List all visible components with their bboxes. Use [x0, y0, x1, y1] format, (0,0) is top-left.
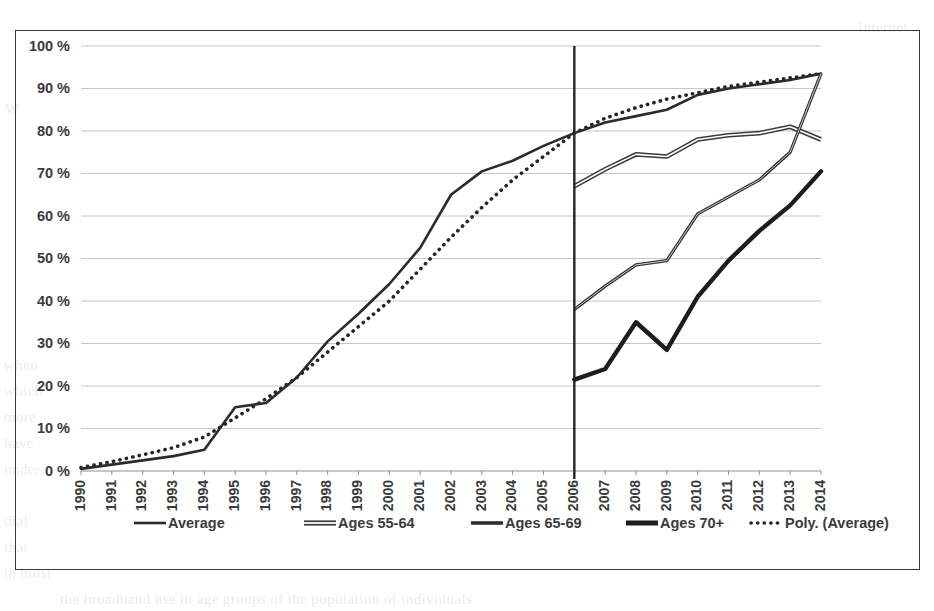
x-tick-label: 1997	[288, 480, 304, 511]
series-line-average	[81, 74, 821, 469]
x-tick-label: 1994	[195, 480, 211, 511]
y-tick-label: 80 %	[37, 123, 70, 139]
legend-label-poly-average[interactable]: Poly. (Average)	[785, 515, 889, 531]
gridlines	[81, 46, 821, 471]
y-tick-label: 40 %	[37, 293, 70, 309]
x-axis-tickmarks	[81, 471, 821, 475]
y-tick-label: 70 %	[37, 165, 70, 181]
x-tick-label: 2001	[411, 480, 427, 511]
x-tick-label: 2004	[503, 480, 519, 511]
series-line-ages-70	[574, 171, 821, 379]
x-tick-label: 1991	[103, 480, 119, 511]
x-tick-label: 2006	[565, 480, 581, 511]
legend-label-ages-55-64[interactable]: Ages 55-64	[338, 515, 415, 531]
x-tick-label: 2007	[596, 480, 612, 511]
y-tick-label: 10 %	[37, 420, 70, 436]
y-tick-label: 100 %	[29, 38, 70, 54]
x-tick-label: 2003	[473, 480, 489, 511]
legend-label-ages-65-69[interactable]: Ages 65-69	[505, 515, 582, 531]
y-axis-tick-labels: 0 %10 %20 %30 %40 %50 %60 %70 %80 %90 %1…	[29, 38, 70, 479]
y-tick-label: 30 %	[37, 335, 70, 351]
x-tick-label: 1996	[257, 480, 273, 511]
x-tick-label: 1999	[349, 480, 365, 511]
x-tick-label: 1993	[164, 480, 180, 511]
x-tick-label: 2008	[627, 480, 643, 511]
chart-container: 0 %10 %20 %30 %40 %50 %60 %70 %80 %90 %1…	[15, 30, 920, 570]
y-tick-label: 50 %	[37, 250, 70, 266]
legend-label-ages-70[interactable]: Ages 70+	[660, 515, 724, 531]
x-tick-label: 2013	[781, 480, 797, 511]
x-tick-label: 2012	[750, 480, 766, 511]
x-tick-label: 2009	[658, 480, 674, 511]
x-tick-label: 2011	[719, 480, 735, 511]
x-axis-tick-labels: 1990199119921993199419951996199719981999…	[72, 480, 828, 511]
y-tick-label: 60 %	[37, 208, 70, 224]
y-tick-label: 90 %	[37, 80, 70, 96]
x-tick-label: 1995	[226, 480, 242, 511]
x-tick-label: 2000	[380, 480, 396, 511]
x-tick-label: 1990	[72, 480, 88, 511]
x-tick-label: 2014	[812, 480, 828, 511]
x-tick-label: 2002	[442, 480, 458, 511]
series-line-ages-65-69	[574, 74, 821, 310]
x-tick-label: 2010	[688, 480, 704, 511]
series-line-ages-65-69	[574, 74, 821, 310]
legend-label-average[interactable]: Average	[168, 515, 225, 531]
x-tick-label: 1998	[318, 480, 334, 511]
chart-legend: AverageAges 55-64Ages 65-69Ages 70+Poly.…	[134, 515, 889, 531]
y-tick-label: 20 %	[37, 378, 70, 394]
line-chart: 0 %10 %20 %30 %40 %50 %60 %70 %80 %90 %1…	[16, 31, 921, 571]
x-tick-label: 1992	[133, 480, 149, 511]
y-tick-label: 0 %	[45, 463, 70, 479]
series-line-poly-average	[81, 74, 821, 468]
data-series	[81, 74, 821, 469]
bleed-line: the broadband use in age groups of the p…	[60, 586, 472, 611]
x-tick-label: 2005	[534, 480, 550, 511]
